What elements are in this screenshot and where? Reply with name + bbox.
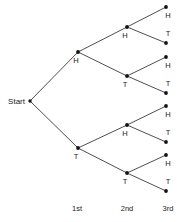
tree-edge-t-to-tt: [78, 148, 127, 173]
tree-node-tt: [125, 171, 129, 175]
tree-node-hhh: [164, 5, 168, 9]
node-label-htt: T: [166, 79, 171, 88]
tree-edge-t-to-th: [78, 125, 127, 148]
tree-node-thh: [164, 104, 168, 108]
tree-edge-h-to-ht: [78, 52, 127, 76]
tree-edge-ht-to-hth: [127, 57, 166, 76]
tree-node-start: [28, 99, 31, 102]
tree-node-hth: [164, 55, 168, 59]
tree-nodes: [28, 5, 168, 193]
tree-edge-th-to-tht: [127, 125, 166, 142]
tree-node-hht: [164, 41, 168, 45]
node-label-hth: H: [165, 61, 170, 70]
node-label-ht: T: [123, 80, 128, 89]
node-label-t: T: [74, 152, 79, 161]
tree-node-tht: [164, 140, 168, 144]
tree-node-th: [125, 123, 129, 127]
stage-label-3rd: 3rd: [163, 204, 174, 213]
node-label-h: H: [73, 56, 78, 65]
tree-edge-ht-to-htt: [127, 76, 166, 93]
node-label-hht: T: [166, 29, 171, 38]
node-label-hhh: H: [165, 11, 170, 20]
tree-node-htt: [164, 91, 168, 95]
node-label-tt: T: [123, 177, 128, 186]
node-label-tht: T: [166, 128, 171, 137]
tree-edge-tt-to-ttt: [127, 173, 166, 191]
tree-edge-tt-to-tth: [127, 155, 166, 173]
tree-edge-start-to-t: [30, 101, 78, 148]
stage-label-2nd: 2nd: [121, 204, 134, 213]
tree-edge-h-to-hh: [78, 27, 127, 52]
tree-edge-start-to-h: [30, 52, 78, 101]
tree-node-hh: [125, 25, 129, 29]
tree-node-t: [76, 146, 80, 150]
tree-node-tth: [164, 153, 168, 157]
tree-node-ht: [125, 74, 129, 78]
stage-axis-labels: 1st2nd3rd: [72, 204, 173, 213]
start-node-label: Start: [8, 97, 26, 106]
node-label-ttt: T: [166, 177, 171, 186]
tree-edge-th-to-thh: [127, 106, 166, 125]
probability-tree-diagram: StartHTHTHTHTHTHTHT 1st2nd3rd: [0, 0, 180, 222]
tree-edge-hh-to-hhh: [127, 7, 166, 27]
tree-node-h: [76, 50, 80, 54]
stage-label-1st: 1st: [72, 204, 83, 213]
node-label-th: H: [122, 129, 127, 138]
tree-edge-hh-to-hht: [127, 27, 166, 43]
node-label-thh: H: [165, 110, 170, 119]
tree-node-ttt: [164, 189, 168, 193]
tree-edges: [30, 7, 166, 191]
node-label-tth: H: [165, 159, 170, 168]
node-label-hh: H: [122, 31, 127, 40]
tree-canvas: StartHTHTHTHTHTHTHT 1st2nd3rd: [0, 0, 180, 222]
